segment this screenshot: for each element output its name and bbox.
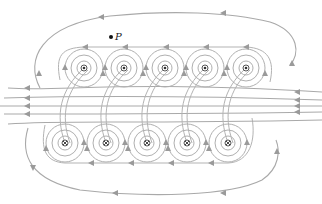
middle-field-lines — [0, 85, 322, 124]
conductor-out-of-page-icon — [81, 65, 87, 71]
conductor-out-of-page-icon — [243, 65, 249, 71]
point-p-label: P — [114, 31, 122, 42]
conductor-into-page-icon — [62, 140, 68, 146]
conductor-into-page-icon — [225, 140, 231, 146]
point-p-marker — [109, 35, 113, 39]
conductor-into-page-icon — [144, 140, 150, 146]
conductor-out-of-page-icon — [202, 65, 208, 71]
point-p: P — [109, 31, 122, 42]
magnetic-field-diagram: P — [0, 0, 322, 204]
conductor-into-page-icon — [184, 140, 190, 146]
conductor-out-of-page-icon — [121, 65, 127, 71]
conductor-out-of-page-icon — [162, 65, 168, 71]
conductor-into-page-icon — [103, 140, 109, 146]
